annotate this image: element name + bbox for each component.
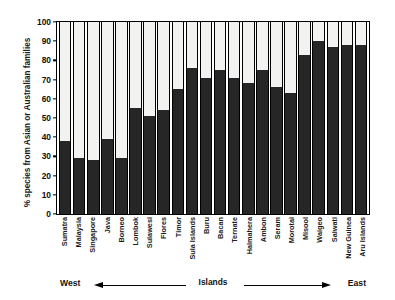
y-axis-title: % species from Asian or Australian famil… <box>23 18 32 228</box>
bar-column <box>341 22 354 214</box>
bar-column <box>186 22 199 214</box>
bar-column <box>157 22 170 214</box>
x-tick-label: Waigeo <box>315 217 324 243</box>
x-label-slot: Misool <box>299 216 312 272</box>
bar-column <box>327 22 340 214</box>
left-arrow-line <box>102 285 186 286</box>
x-label-slot: Sulawesi <box>143 216 156 272</box>
x-tick-label: Misool <box>301 217 310 240</box>
x-tick-label: Morotai <box>287 217 296 243</box>
x-label-slot: Borneo <box>115 216 128 272</box>
bar-fill <box>342 45 353 214</box>
bar-column <box>115 22 128 214</box>
bar-fill <box>102 139 113 214</box>
bar-series <box>57 22 369 214</box>
x-label-slot: Seram <box>271 216 284 272</box>
x-label-slot: Sula Islands <box>185 216 198 272</box>
x-tick-label: Timor <box>173 217 182 237</box>
x-label-slot: Buru <box>200 216 213 272</box>
bar-column <box>270 22 283 214</box>
x-tick-label: Sula Islands <box>187 217 196 260</box>
bar-column <box>172 22 185 214</box>
x-tick-label: Borneo <box>116 217 125 243</box>
x-label-slot: Timor <box>171 216 184 272</box>
bar-fill <box>158 110 169 214</box>
plot-area: 0102030405060708090100 <box>56 21 370 215</box>
x-tick-label: Flores <box>159 217 168 239</box>
right-arrow-icon <box>322 282 331 288</box>
west-label: West <box>60 278 80 288</box>
x-tick-label: Ternate <box>230 217 239 243</box>
x-label-slot: Ternate <box>228 216 241 272</box>
x-tick-label: Ambon <box>258 217 267 242</box>
x-tick-label: Salwati <box>329 217 338 242</box>
x-label-slot: Singapore <box>86 216 99 272</box>
bar-column <box>298 22 311 214</box>
bar-fill <box>299 55 310 214</box>
x-label-slot: Flores <box>157 216 170 272</box>
x-tick-label: Halmahera <box>244 217 253 254</box>
bar-column <box>284 22 297 214</box>
bar-fill <box>229 78 240 214</box>
bar-column <box>59 22 72 214</box>
x-label-slot: Sumatra <box>58 216 71 272</box>
x-label-slot: Aru Islands <box>356 216 369 272</box>
x-label-slot: Waigeo <box>313 216 326 272</box>
bar-fill <box>313 41 324 214</box>
bar-fill <box>60 141 71 214</box>
bar-fill <box>356 45 367 214</box>
x-tick-label: New Guinea <box>343 217 352 259</box>
bar-fill <box>187 68 198 214</box>
east-label: East <box>348 278 366 288</box>
bar-fill <box>116 158 127 214</box>
x-tick-label: Sumatra <box>60 217 69 246</box>
bar-fill <box>328 47 339 214</box>
bar-column <box>87 22 100 214</box>
right-arrow-line <box>244 285 324 286</box>
x-tick-label: Bacan <box>216 217 225 239</box>
bar-column <box>143 22 156 214</box>
bar-column <box>129 22 142 214</box>
x-tick-label: Singapore <box>88 217 97 253</box>
bar-column <box>312 22 325 214</box>
bar-fill <box>243 83 254 214</box>
x-label-slot: Ambon <box>256 216 269 272</box>
x-label-slot: Malaysia <box>72 216 85 272</box>
x-tick-label: Buru <box>201 217 210 234</box>
bar-fill <box>130 108 141 214</box>
x-label-slot: Bacan <box>214 216 227 272</box>
bar-column <box>242 22 255 214</box>
bar-fill <box>271 87 282 214</box>
chart-figure: % species from Asian or Australian famil… <box>0 0 395 300</box>
bar-fill <box>215 70 226 214</box>
bar-fill <box>88 160 99 214</box>
x-tick-label: Seram <box>272 217 281 239</box>
direction-legend: West Islands East <box>56 275 370 295</box>
x-label-slot: Halmahera <box>242 216 255 272</box>
bar-column <box>200 22 213 214</box>
bar-fill <box>201 78 212 214</box>
x-label-slot: Salwati <box>327 216 340 272</box>
x-tick-label: Sulawesi <box>145 217 154 248</box>
x-tick-label: Java <box>102 217 111 233</box>
x-label-slot: New Guinea <box>342 216 355 272</box>
x-tick-label: Malaysia <box>74 217 83 247</box>
x-label-slot: Java <box>100 216 113 272</box>
x-axis-labels: SumatraMalaysiaSingaporeJavaBorneoLombok… <box>56 216 370 272</box>
x-axis-title: Islands <box>199 277 228 287</box>
bar-column <box>256 22 269 214</box>
bar-fill <box>74 158 85 214</box>
bar-column <box>228 22 241 214</box>
bar-fill <box>257 70 268 214</box>
bar-column <box>73 22 86 214</box>
x-tick-label: Lombok <box>131 217 140 245</box>
x-tick-label: Aru Islands <box>358 217 367 257</box>
x-label-slot: Morotai <box>285 216 298 272</box>
bar-fill <box>285 93 296 214</box>
bar-column <box>355 22 368 214</box>
bar-fill <box>144 116 155 214</box>
bar-column <box>101 22 114 214</box>
bar-column <box>214 22 227 214</box>
bar-fill <box>173 89 184 214</box>
x-label-slot: Lombok <box>129 216 142 272</box>
